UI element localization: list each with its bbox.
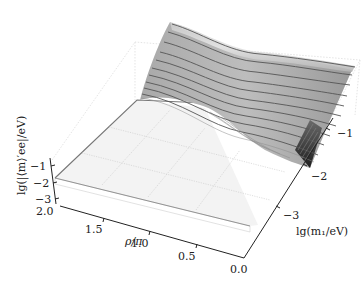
- z-tick-label: −2: [33, 177, 49, 190]
- z-axis-title: lg(|⟨m⟩′ee|/eV): [15, 116, 29, 195]
- m1-tick-label: −1: [337, 127, 353, 140]
- m1-tick-label: −3: [283, 209, 299, 222]
- m1-tick-label: −2: [311, 170, 327, 183]
- surface-plot-figure: −1 −2 −3 2.0 1.5 1.0 0.5 0.0 −1 −2 −3 lg…: [0, 0, 363, 287]
- rho-tick-label: 2.0: [36, 205, 54, 218]
- rho-tick-label: 1.5: [85, 223, 103, 236]
- rho-tick-label: 0.0: [230, 263, 248, 276]
- m1-axis-title: lg(m₁/eV): [296, 225, 348, 238]
- z-tick-label: −1: [30, 160, 46, 173]
- surface-plot-svg: −1 −2 −3 2.0 1.5 1.0 0.5 0.0 −1 −2 −3 lg…: [0, 0, 363, 287]
- rho-axis-title: ρ/π: [124, 235, 143, 248]
- rho-tick-label: 0.5: [178, 250, 196, 263]
- z-axis-ticks: −1 −2 −3: [30, 160, 51, 206]
